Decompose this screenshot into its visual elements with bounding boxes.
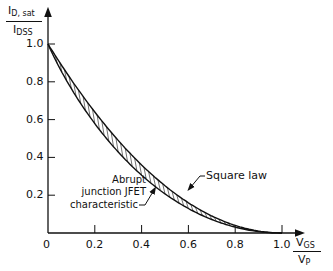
y-tick-label: 0.2 — [26, 188, 44, 201]
y-tick-label: 0.8 — [26, 75, 44, 88]
x-label-fraction-bar — [293, 251, 321, 252]
x-tick-label: 0.4 — [133, 238, 151, 251]
x-tick-label: 0.6 — [179, 238, 197, 251]
y-label-denominator: IDSS — [13, 23, 33, 37]
abrupt-label-2: junction JFET — [58, 186, 146, 197]
x-tick-label: 0.8 — [226, 238, 244, 251]
x-tick-label: 1.0 — [273, 238, 291, 251]
abrupt-label-1: Abrupt — [82, 174, 146, 185]
plot-area — [0, 0, 333, 271]
square-law-label: Square law — [206, 169, 267, 182]
y-tick-label: 0.4 — [26, 150, 44, 163]
abrupt-label-3: characteristic — [58, 199, 138, 210]
y-label-fraction-bar — [6, 21, 42, 22]
chart: ID, sat IDSS VGS VP Square law Abrupt ju… — [0, 0, 333, 271]
x-tick-label: 0 — [43, 238, 50, 251]
square-law-leader — [190, 176, 205, 188]
y-tick-label: 0.6 — [26, 113, 44, 126]
x-tick-label: 0.2 — [86, 238, 104, 251]
x-label-denominator: VP — [298, 253, 310, 267]
x-label-numerator: VGS — [296, 236, 315, 250]
y-label-numerator: ID, sat — [8, 4, 35, 18]
y-tick-label: 1.0 — [26, 37, 44, 50]
